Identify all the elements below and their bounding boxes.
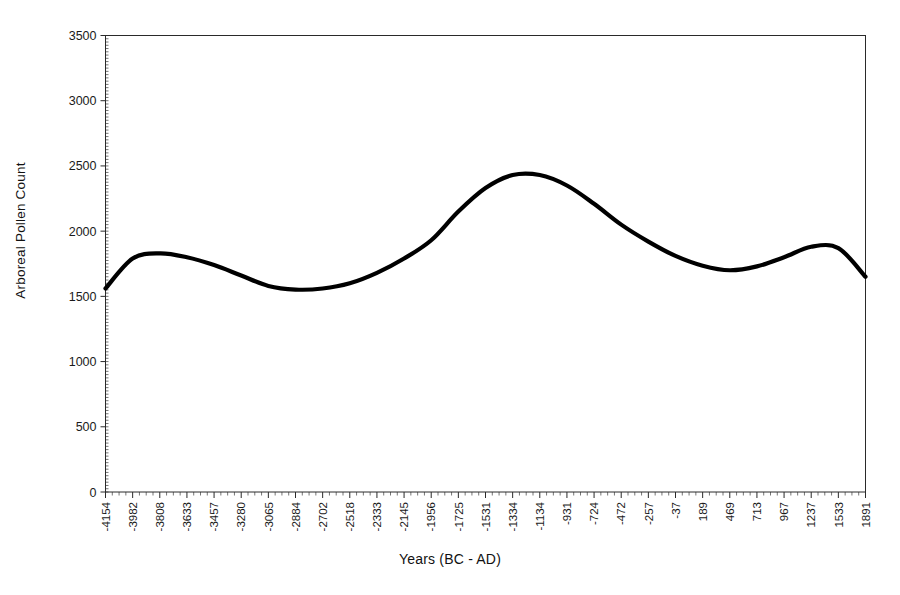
x-axis-tick-label: 469 [724,502,736,521]
y-axis-tick-label: 2500 [69,159,97,173]
x-axis-tick-label: 1533 [833,502,845,528]
x-axis-tick-label: -3280 [235,502,247,531]
x-axis-title: Years (BC - AD) [0,551,900,567]
x-axis-tick-label: -2702 [317,502,329,531]
x-axis-tick-label: -3633 [181,502,193,531]
y-axis-tick-label: 500 [76,420,97,434]
x-axis-tick-label: -724 [588,501,600,525]
x-axis-title-label: Years (BC - AD) [399,551,501,567]
x-axis-tick-label: -1134 [534,501,546,530]
x-axis-tick-label: 189 [697,502,709,521]
x-axis-tick-label: 1891 [860,502,872,528]
plot-area: 0500100015002000250030003500 -4154-3982-… [0,0,900,595]
y-axis-tick-label: 1500 [69,290,97,304]
pollen-line-chart: Arboreal Pollen Count 050010001500200025… [0,0,900,595]
x-axis-tick-label: 1237 [805,502,817,528]
x-axis-tick-label: 967 [778,502,790,521]
x-axis-tick-label: -1334 [507,501,519,531]
x-axis-tick-label: -3808 [154,502,166,531]
y-axis-title-label: Arboreal Pollen Count [13,162,28,298]
x-axis-tick-label: 713 [751,502,763,521]
y-axis-tick-label: 1000 [69,355,97,369]
x-axis-tick-label: -472 [615,502,627,525]
x-axis-tick-label: -1531 [480,502,492,531]
x-axis-tick-label: -3065 [263,502,275,531]
x-axis-tick-label: -1725 [453,502,465,531]
x-axis-tick-label: -257 [643,502,655,525]
x-axis-tick-label: -4154 [100,501,112,531]
x-axis-tick-label: -37 [670,502,682,519]
x-axis-tick-label: -931 [561,502,573,525]
x-axis-tick-label: -2145 [398,502,410,531]
x-axis-tick-label: -2518 [344,502,356,531]
x-axis-tick-label: -3457 [208,502,220,531]
x-axis-tick-label: -2333 [371,502,383,531]
y-axis-title: Arboreal Pollen Count [0,0,40,460]
x-axis-tick-label: -1956 [425,502,437,531]
x-axis-tick-label: -3982 [127,502,139,531]
y-axis-tick-label: 3000 [69,94,97,108]
y-axis-tick-label: 0 [90,486,97,500]
y-axis-tick-label: 2000 [69,225,97,239]
y-axis-tick-label: 3500 [69,29,97,43]
x-axis-tick-label: -2884 [290,501,302,531]
